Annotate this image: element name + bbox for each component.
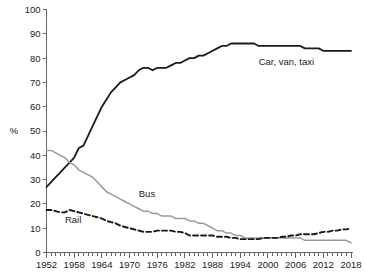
- x-tick-label: 2006: [285, 259, 306, 270]
- x-axis-ticks: [47, 253, 352, 258]
- y-tick-label: 60: [30, 101, 41, 112]
- y-tick-label: 30: [30, 174, 41, 185]
- x-tick-label: 2000: [257, 259, 278, 270]
- y-tick-label: 10: [30, 223, 41, 234]
- x-tick-label: 2018: [340, 259, 361, 270]
- y-tick-label: 20: [30, 198, 41, 209]
- y-tick-label: 50: [30, 125, 41, 136]
- x-tick-label: 1994: [230, 259, 251, 270]
- y-axis-title: %: [10, 125, 19, 136]
- x-tick-label: 1976: [147, 259, 168, 270]
- x-tick-label: 1970: [119, 259, 140, 270]
- y-tick-label: 0: [35, 247, 40, 258]
- y-tick-label: 40: [30, 150, 41, 161]
- x-tick-label: 1952: [36, 259, 57, 270]
- x-tick-label: 2012: [313, 259, 334, 270]
- y-tick-label: 90: [30, 28, 41, 39]
- x-tick-label: 1988: [202, 259, 223, 270]
- series-annotations: Car, van, taxiBusRail: [65, 56, 314, 225]
- x-axis-tick-labels: 1952195819641970197619821988199420002006…: [36, 259, 362, 270]
- series-label-bus: Bus: [139, 188, 156, 199]
- x-tick-label: 1982: [174, 259, 195, 270]
- series-label-rail: Rail: [65, 214, 81, 225]
- series-lines: [47, 44, 352, 243]
- chart-container: 0102030405060708090100 19521958196419701…: [0, 0, 365, 279]
- series-line-rail: [47, 210, 352, 239]
- y-tick-label: 70: [30, 77, 41, 88]
- x-tick-label: 1958: [64, 259, 85, 270]
- y-tick-label: 100: [25, 4, 41, 15]
- y-axis: 0102030405060708090100: [25, 4, 47, 258]
- y-axis-ticks: [43, 10, 47, 253]
- line-chart: 0102030405060708090100 19521958196419701…: [0, 0, 365, 279]
- series-label-car-van-taxi: Car, van, taxi: [259, 56, 314, 67]
- x-axis: 1952195819641970197619821988199420002006…: [36, 253, 362, 270]
- series-line-bus: [47, 150, 352, 242]
- x-tick-label: 1964: [91, 259, 112, 270]
- y-axis-tick-labels: 0102030405060708090100: [25, 4, 41, 258]
- y-tick-label: 80: [30, 53, 41, 64]
